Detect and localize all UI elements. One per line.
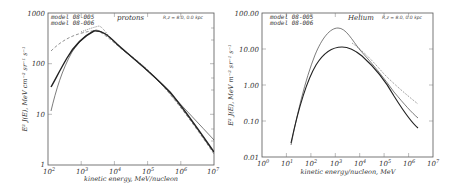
- position-params: R,z = 8.0, 0.0 kpc: [382, 15, 423, 20]
- svg-text:105: 105: [379, 158, 391, 168]
- y-tick-1: 1.00: [243, 82, 259, 90]
- y-axis-label: E² J(E), MeV cm⁻² sr⁻¹ s⁻¹: [21, 46, 29, 132]
- svg-text:107: 107: [207, 166, 220, 176]
- y-tick-1000: 1000: [27, 10, 45, 18]
- model-08-005-curve: [291, 28, 418, 145]
- x-axis-label: kinetic energy/nucleon, MeV: [301, 168, 397, 176]
- y-tick-100: 100: [32, 60, 46, 68]
- svg-text:106: 106: [403, 158, 416, 168]
- y-axis-ticks: [48, 64, 214, 115]
- species-label: Helium: [347, 14, 374, 22]
- y-axis-label: E² J(E), MeV m⁻² sr⁻¹ s⁻¹: [227, 44, 235, 126]
- legend-model-08-006: model 08-006: [269, 19, 314, 26]
- x-tick-labels: 100 101 102 103 104 105 106 107: [257, 158, 440, 168]
- svg-text:102: 102: [305, 158, 317, 168]
- species-label: protons: [117, 14, 145, 22]
- y-tick-0.1: 0.10: [243, 118, 259, 126]
- svg-text:104: 104: [354, 158, 366, 168]
- legend-model-08-006: model 08-006: [50, 19, 95, 26]
- svg-text:100: 100: [257, 158, 270, 168]
- y-tick-100: 100.00: [235, 10, 260, 18]
- model-08-006-curve: [291, 47, 418, 143]
- dashed-curve: [51, 31, 214, 154]
- dotted-curve: [81, 26, 214, 153]
- y-tick-10: 10.00: [239, 46, 260, 54]
- svg-text:101: 101: [281, 158, 293, 168]
- position-params: R,z = 8.0, 0.0 kpc: [163, 15, 204, 20]
- plot-frame: [262, 13, 433, 157]
- y-axis-ticks: [262, 49, 433, 121]
- figure: 1000 100 10 1 102 103 104 105 106 107 ki…: [0, 0, 451, 183]
- model-08-005-curve: [51, 31, 214, 152]
- x-axis-label: kinetic energy, MeV/nucleon: [84, 175, 178, 183]
- y-tick-10: 10: [36, 111, 45, 119]
- svg-text:103: 103: [330, 158, 342, 168]
- right-axis-minor-ticks: [211, 28, 214, 141]
- protons-plot: 1000 100 10 1 102 103 104 105 106 107 ki…: [21, 10, 220, 183]
- svg-text:102: 102: [43, 166, 55, 176]
- svg-text:107: 107: [427, 158, 440, 168]
- helium-plot: 100.00 10.00 1.00 0.10 0.01 100 101 102 …: [227, 10, 440, 176]
